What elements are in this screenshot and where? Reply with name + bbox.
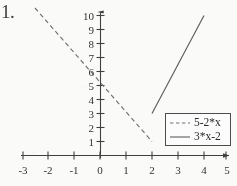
y-tick-label: 6 <box>72 66 94 77</box>
y-tick-label: 8 <box>72 38 94 49</box>
y-tick-label: 3 <box>72 108 94 119</box>
x-tick-label: 2 <box>149 165 155 176</box>
legend: 5-2*x 3*x-2 <box>165 113 231 146</box>
legend-label: 3*x-2 <box>191 131 221 143</box>
y-tick-label: 10 <box>72 10 94 21</box>
x-tick-label: -1 <box>69 165 78 176</box>
figure-canvas: 1. <box>0 0 237 186</box>
x-tick-label: 0 <box>97 165 103 176</box>
y-tick-label: 5 <box>72 80 94 91</box>
x-tick-label: 5 <box>224 165 230 176</box>
y-tick-label: 7 <box>72 52 94 63</box>
legend-item-solid: 3*x-2 <box>169 130 226 144</box>
legend-item-dashed: 5-2*x <box>169 116 226 130</box>
x-tick-label: 4 <box>201 165 207 176</box>
y-axis <box>97 12 105 158</box>
legend-label: 5-2*x <box>191 117 221 129</box>
y-tick-label: 2 <box>72 122 94 133</box>
y-tick-label: 9 <box>72 24 94 35</box>
x-tick-label: -3 <box>18 165 27 176</box>
plot-area <box>0 0 237 186</box>
legend-swatch-dashed-icon <box>169 118 191 128</box>
y-tick-label: 1 <box>72 136 94 147</box>
x-axis <box>21 152 229 160</box>
legend-swatch-solid-icon <box>169 132 191 142</box>
series-line-3x-2 <box>152 16 204 114</box>
y-tick-label: 4 <box>72 94 94 105</box>
x-tick-label: 3 <box>175 165 181 176</box>
x-tick-label: -2 <box>43 165 52 176</box>
x-tick-label: 1 <box>123 165 129 176</box>
